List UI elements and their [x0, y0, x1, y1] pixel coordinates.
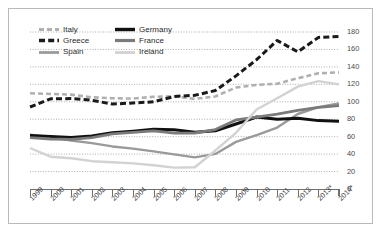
y-axis-tick-label: 100 — [347, 98, 359, 105]
y-axis-tick-label: 160 — [347, 46, 359, 53]
chart-legend: ItalyGermanyGreeceFranceSpainIreland — [39, 24, 204, 58]
legend-swatch-spain-icon — [39, 49, 59, 56]
legend-swatch-ireland-icon — [115, 49, 135, 56]
legend-label-france: France — [139, 37, 164, 45]
y-axis: 020406080100120140160180 — [343, 32, 377, 189]
legend-label-ireland: Ireland — [139, 48, 163, 56]
x-axis-tick-label: 2014* — [337, 184, 355, 202]
legend-item-greece[interactable]: Greece — [39, 35, 115, 46]
y-axis-tick-label: 180 — [347, 28, 359, 35]
legend-label-germany: Germany — [139, 26, 172, 34]
legend-label-greece: Greece — [63, 37, 89, 45]
x-axis-labels: 1999200020012002200320042005200620072008… — [30, 197, 339, 232]
y-axis-tick-label: 20 — [347, 168, 355, 175]
legend-label-spain: Spain — [63, 48, 83, 56]
chart-container: 020406080100120140160180 199920002001200… — [8, 8, 373, 224]
legend-swatch-italy-icon — [39, 26, 59, 33]
legend-item-france[interactable]: France — [115, 35, 204, 46]
legend-swatch-greece-icon — [39, 37, 59, 44]
legend-item-spain[interactable]: Spain — [39, 47, 115, 58]
y-axis-tick-label: 60 — [347, 133, 355, 140]
legend-label-italy: Italy — [63, 26, 78, 34]
legend-swatch-france-icon — [115, 37, 135, 44]
y-axis-tick-label: 120 — [347, 81, 359, 88]
y-axis-tick-label: 40 — [347, 150, 355, 157]
legend-item-italy[interactable]: Italy — [39, 24, 115, 35]
y-axis-tick-label: 140 — [347, 63, 359, 70]
legend-item-germany[interactable]: Germany — [115, 24, 204, 35]
series-line-france — [30, 106, 339, 140]
legend-swatch-germany-icon — [115, 26, 135, 33]
y-axis-tick-label: 80 — [347, 116, 355, 123]
legend-item-ireland[interactable]: Ireland — [115, 47, 204, 58]
